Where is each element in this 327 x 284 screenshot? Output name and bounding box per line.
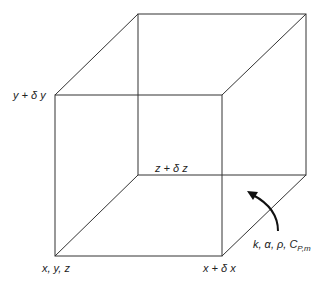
curved-arrow-icon [247,191,278,231]
label-x-plus-dx: x + δ x [202,262,236,274]
edge-top-right [222,14,306,95]
properties-subscript: P,m [297,244,311,253]
properties-main: k, α, ρ, C [253,238,297,250]
label-origin: x, y, z [41,262,70,274]
label-y-plus-dy: y + δ y [12,89,47,101]
label-properties: k, α, ρ, CP,m [253,238,311,253]
cube-diagram: y + δ y z + δ z x, y, z x + δ x k, α, ρ,… [0,0,327,284]
edge-top-left [55,14,138,95]
label-z-plus-dz: z + δ z [154,162,188,174]
edge-bottom-left [55,175,138,256]
